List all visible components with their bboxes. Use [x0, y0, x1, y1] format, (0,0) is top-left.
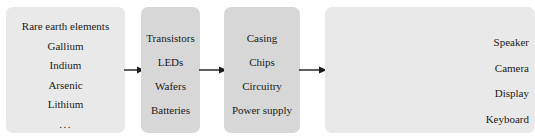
list-item: Transistors: [146, 33, 195, 44]
list-item: Keyboard: [486, 114, 529, 125]
list-item: Indium: [50, 60, 82, 71]
arrow-right-icon: [299, 64, 327, 76]
list-item: Casing: [247, 33, 278, 44]
stage-final-product: Motherboard CPU GPU Memory Hard drive Sp…: [325, 7, 535, 133]
stage-components: Transistors LEDs Wafers Batteries: [141, 7, 200, 133]
list-item: Gallium: [47, 41, 83, 52]
list-item: Camera: [495, 63, 529, 74]
list-item-ellipsis: ...: [59, 119, 72, 130]
list-item: LEDs: [158, 57, 184, 68]
list-item: Lithium: [48, 99, 83, 110]
stage-raw-materials: Rare earth elements Gallium Indium Arsen…: [6, 7, 125, 133]
list-item: Rare earth elements: [22, 21, 109, 32]
list-item: Circuitry: [242, 81, 282, 92]
assembly-list: Casing Chips Circuitry Power supply: [224, 33, 300, 116]
list-item: Arsenic: [48, 80, 82, 91]
supply-chain-diagram: Rare earth elements Gallium Indium Arsen…: [0, 0, 535, 140]
product-right-labels: Speaker Camera Display Keyboard: [486, 37, 529, 125]
list-item: Wafers: [155, 81, 186, 92]
list-item: Speaker: [494, 37, 529, 48]
list-item: Chips: [249, 57, 275, 68]
list-item: Batteries: [151, 105, 190, 116]
arrow-right-icon: [199, 64, 227, 76]
components-list: Transistors LEDs Wafers Batteries: [141, 33, 200, 116]
list-item: Display: [495, 88, 529, 99]
raw-materials-list: Rare earth elements Gallium Indium Arsen…: [6, 21, 125, 130]
list-item: Power supply: [232, 105, 292, 116]
stage-assembly: Casing Chips Circuitry Power supply: [224, 7, 300, 133]
